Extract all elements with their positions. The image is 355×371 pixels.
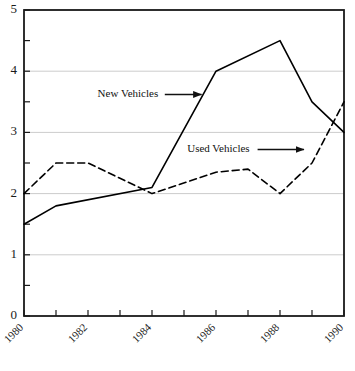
y-tick-label: 5 <box>11 1 18 16</box>
annotation-label-1: New Vehicles <box>98 87 159 99</box>
y-tick-label: 2 <box>11 185 18 200</box>
y-tick-label: 1 <box>11 246 18 261</box>
y-tick-label: 4 <box>11 62 18 77</box>
line-chart: New VehiclesUsed Vehicles 012345 1980198… <box>0 0 355 371</box>
y-tick-label: 3 <box>11 123 18 138</box>
chart-container: New VehiclesUsed Vehicles 012345 1980198… <box>0 0 355 371</box>
annotation-label-2: Used Vehicles <box>187 142 249 154</box>
y-tick-label: 0 <box>11 307 18 322</box>
